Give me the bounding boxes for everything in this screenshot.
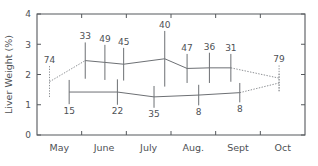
point-label-40: 40 bbox=[159, 20, 171, 30]
y-tick-label: 2 bbox=[25, 70, 31, 80]
point-label-74: 74 bbox=[44, 55, 56, 65]
series-segment-upper bbox=[124, 59, 165, 64]
point-label-45: 45 bbox=[118, 37, 129, 47]
point-label-15: 15 bbox=[63, 106, 74, 116]
x-axis-label-july: July bbox=[139, 142, 157, 153]
x-axis-label-may: May bbox=[50, 142, 70, 153]
x-axis-label-aug: Aug. bbox=[183, 142, 205, 153]
point-label-79: 79 bbox=[273, 54, 285, 64]
y-tick-label: 3 bbox=[25, 40, 31, 50]
point-label-35: 35 bbox=[148, 109, 159, 119]
chart-canvas: 01234MayJuneJulyAug.SeptOctLiver Weight … bbox=[0, 0, 318, 166]
point-label-33: 33 bbox=[80, 31, 91, 41]
series-segment-lower bbox=[199, 93, 240, 95]
point-label-31: 31 bbox=[225, 43, 236, 53]
point-label-8: 8 bbox=[237, 104, 243, 114]
x-axis-label-june: June bbox=[93, 142, 115, 153]
liver-weight-chart: 01234MayJuneJulyAug.SeptOctLiver Weight … bbox=[0, 0, 318, 166]
y-axis-title: Liver Weight (%) bbox=[3, 35, 14, 114]
point-label-22: 22 bbox=[112, 106, 123, 116]
point-label-49: 49 bbox=[99, 34, 111, 44]
series-segment-lower bbox=[154, 95, 199, 97]
plot-frame bbox=[37, 14, 305, 135]
series-segment-upper bbox=[105, 62, 124, 64]
y-tick-label: 0 bbox=[25, 130, 31, 140]
series-segment-lower bbox=[117, 92, 154, 97]
point-label-36: 36 bbox=[204, 42, 216, 52]
series-segment-lower bbox=[240, 83, 279, 93]
x-axis-label-sept: Sept bbox=[227, 142, 249, 153]
series-segment-upper bbox=[165, 59, 187, 69]
x-axis-label-oct: Oct bbox=[274, 142, 291, 153]
series-segment-upper bbox=[187, 68, 209, 69]
series-segment-upper bbox=[231, 68, 279, 78]
y-tick-label: 4 bbox=[25, 9, 31, 19]
series-segment-upper bbox=[85, 61, 105, 63]
y-tick-label: 1 bbox=[25, 100, 31, 110]
point-label-47: 47 bbox=[181, 43, 192, 53]
point-label-8: 8 bbox=[196, 107, 202, 117]
